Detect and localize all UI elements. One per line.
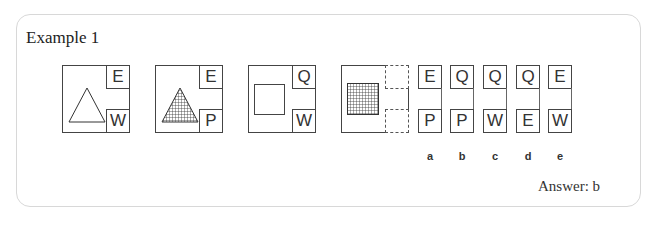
figure-4-missing-bottom bbox=[385, 109, 409, 133]
option-a-top-letter: E bbox=[418, 65, 442, 89]
example-title: Example 1 bbox=[26, 28, 99, 48]
option-a-divider bbox=[441, 88, 442, 110]
option-a[interactable]: E P bbox=[418, 65, 442, 133]
option-d[interactable]: Q E bbox=[516, 65, 540, 133]
figure-3: Q W bbox=[248, 65, 316, 133]
option-d-divider bbox=[539, 88, 540, 110]
option-e-label: e bbox=[548, 150, 572, 162]
square-outline-icon bbox=[254, 84, 285, 115]
option-a-label: a bbox=[418, 150, 442, 162]
option-b-divider bbox=[473, 88, 474, 110]
option-e-top-letter: E bbox=[548, 65, 572, 89]
figure-1-top-letter: E bbox=[106, 65, 130, 89]
figure-4-question bbox=[341, 65, 409, 133]
square-hatched-icon bbox=[347, 83, 381, 117]
figure-2-top-letter: E bbox=[199, 65, 223, 89]
figure-1: E W bbox=[62, 65, 130, 133]
figure-3-top-letter: Q bbox=[292, 65, 316, 89]
option-b-top-letter: Q bbox=[450, 65, 474, 89]
figure-2: E P bbox=[155, 65, 223, 133]
option-c[interactable]: Q W bbox=[483, 65, 507, 133]
option-c-top-letter: Q bbox=[483, 65, 507, 89]
option-a-bottom-letter: P bbox=[418, 109, 442, 133]
option-d-label: d bbox=[516, 150, 540, 162]
option-e[interactable]: E W bbox=[548, 65, 572, 133]
option-e-bottom-letter: W bbox=[548, 109, 572, 133]
triangle-hatched-icon bbox=[160, 84, 204, 128]
answer-text: Answer: b bbox=[538, 178, 600, 195]
figure-3-bottom-letter: W bbox=[292, 109, 316, 133]
figure-1-bottom-letter: W bbox=[106, 109, 130, 133]
option-b-label: b bbox=[450, 150, 474, 162]
option-b-bottom-letter: P bbox=[450, 109, 474, 133]
option-b[interactable]: Q P bbox=[450, 65, 474, 133]
figure-2-bottom-letter: P bbox=[199, 109, 223, 133]
option-c-divider bbox=[506, 88, 507, 110]
figure-4-missing-top bbox=[385, 65, 409, 89]
triangle-outline-icon bbox=[67, 84, 111, 128]
option-c-label: c bbox=[483, 150, 507, 162]
option-c-bottom-letter: W bbox=[483, 109, 507, 133]
option-e-divider bbox=[571, 88, 572, 110]
option-d-top-letter: Q bbox=[516, 65, 540, 89]
option-d-bottom-letter: E bbox=[516, 109, 540, 133]
